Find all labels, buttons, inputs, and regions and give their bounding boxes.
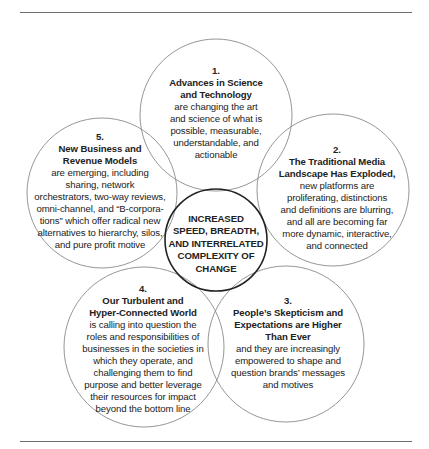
bottom-divider-rule bbox=[20, 441, 412, 442]
center-label: INCREASED SPEED, BREADTH, AND INTERRELAT… bbox=[165, 213, 267, 275]
item-5-text: 5. New Business and Revenue Models are e… bbox=[30, 131, 170, 251]
item-5-title: New Business and Revenue Models bbox=[30, 143, 170, 167]
item-2-body: new platforms are proliferating, distinc… bbox=[272, 180, 402, 252]
item-4-title: Our Turbulent and Hyper-Connected World bbox=[76, 295, 210, 319]
item-3-title: People’s Skepticism and Expectations are… bbox=[226, 307, 350, 343]
item-2-number: 2. bbox=[272, 144, 402, 156]
item-2-text: 2. The Traditional Media Landscape Has E… bbox=[272, 144, 402, 252]
item-1-number: 1. bbox=[146, 65, 286, 77]
item-3-body: and they are increasingly empowered to s… bbox=[226, 343, 350, 391]
item-5-body: are emerging, including sharing, network… bbox=[30, 167, 170, 251]
item-3-text: 3. People’s Skepticism and Expectations … bbox=[226, 295, 350, 391]
item-4-number: 4. bbox=[76, 283, 210, 295]
item-1-title: Advances in Science and Technology bbox=[146, 77, 286, 101]
item-2-title: The Traditional Media Landscape Has Expl… bbox=[272, 156, 402, 180]
item-3-number: 3. bbox=[226, 295, 350, 307]
item-5-number: 5. bbox=[30, 131, 170, 143]
item-4-body: is calling into question the roles and r… bbox=[76, 319, 210, 415]
item-4-text: 4. Our Turbulent and Hyper-Connected Wor… bbox=[76, 283, 210, 415]
